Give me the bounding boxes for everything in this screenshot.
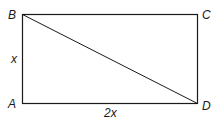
vertex-label-d: D <box>202 99 211 113</box>
side-label-ad: 2x <box>103 106 118 120</box>
rectangle-diagram: B C A D x 2x <box>0 0 217 124</box>
side-label-ab: x <box>10 52 18 66</box>
vertex-label-c: C <box>202 8 211 22</box>
vertex-label-b: B <box>8 8 16 22</box>
diagonal-bd <box>23 15 198 104</box>
vertex-label-a: A <box>7 97 16 111</box>
